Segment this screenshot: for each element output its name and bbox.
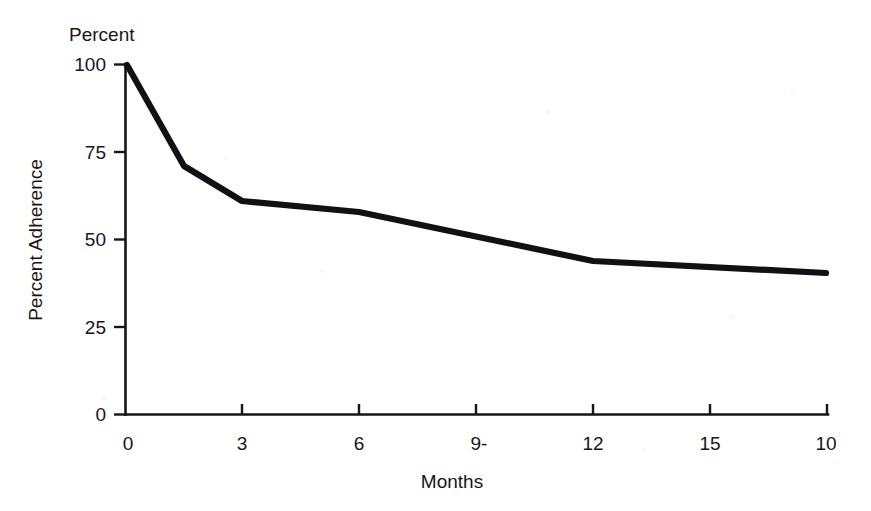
y-axis-title: Percent Adherence bbox=[25, 159, 46, 321]
y-tick-label-0: 0 bbox=[95, 404, 106, 425]
y-tick-marks bbox=[114, 65, 126, 415]
chart-figure: 100 75 50 25 0 0 3 6 9- 12 15 10 Per bbox=[0, 0, 871, 511]
x-axis-title: Months bbox=[421, 471, 483, 492]
x-tick-label-15: 15 bbox=[699, 433, 720, 454]
x-tick-label-3: 3 bbox=[237, 433, 248, 454]
x-tick-label-9: 9- bbox=[471, 433, 488, 454]
y-tick-label-50: 50 bbox=[85, 229, 106, 250]
x-tick-label-0: 0 bbox=[123, 433, 134, 454]
x-tick-marks bbox=[242, 404, 710, 415]
line-chart: 100 75 50 25 0 0 3 6 9- 12 15 10 Per bbox=[0, 0, 871, 511]
y-tick-label-100: 100 bbox=[74, 54, 106, 75]
y-tick-labels: 100 75 50 25 0 bbox=[74, 54, 106, 425]
x-tick-label-12: 12 bbox=[582, 433, 603, 454]
percent-corner-label: Percent bbox=[69, 24, 135, 45]
x-tick-labels: 0 3 6 9- 12 15 10 bbox=[123, 433, 837, 454]
adherence-curve bbox=[127, 65, 826, 273]
y-tick-label-25: 25 bbox=[85, 317, 106, 338]
x-tick-label-6: 6 bbox=[354, 433, 365, 454]
y-tick-label-75: 75 bbox=[85, 142, 106, 163]
x-tick-label-18: 10 bbox=[815, 433, 836, 454]
